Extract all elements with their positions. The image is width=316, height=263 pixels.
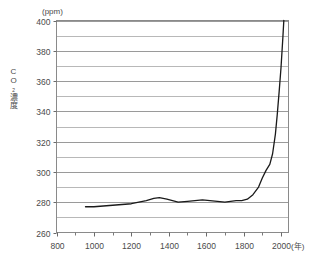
x-axis-tick-label: 1000 (85, 241, 104, 251)
co2-concentration-chart: CO₂濃度 (ppm) 400380360340320300280260 800… (0, 0, 316, 263)
y-axis-tick-label: 280 (36, 198, 50, 208)
y-axis-tick-label: 340 (36, 107, 50, 117)
x-axis-ticks (58, 233, 282, 237)
y-axis-tick-labels: 400380360340320300280260 (36, 17, 50, 239)
x-axis-tick-labels: 800100012001400160018002000 (50, 241, 291, 251)
grid-minor-lines (57, 37, 289, 218)
data-series-group (86, 21, 284, 207)
y-unit-label-group: (ppm) (42, 7, 63, 16)
y-axis-tick-label: 400 (36, 17, 50, 27)
x-axis-tick-label: 2000 (272, 241, 291, 251)
x-axis-tick-label: 1400 (160, 241, 179, 251)
y-axis-tick-label: 380 (36, 47, 50, 57)
y-axis-tick-label: 260 (36, 229, 50, 239)
x-axis-tick-label: 1200 (122, 241, 141, 251)
data-line-co2 (86, 21, 284, 207)
chart-canvas: (ppm) 400380360340320300280260 800100012… (0, 0, 316, 263)
y-axis-tick-label: 300 (36, 168, 50, 178)
y-axis-title-char-4: 度 (8, 102, 19, 111)
x-axis-title: (年) (291, 241, 305, 251)
y-axis-title: CO₂濃度 (8, 68, 19, 111)
x-axis-tick-label: 1800 (235, 241, 254, 251)
y-axis-tick-label: 360 (36, 77, 50, 87)
grid-major-lines (57, 22, 289, 203)
x-axis-tick-label: 1600 (197, 241, 216, 251)
y-unit-label: (ppm) (42, 7, 63, 16)
y-axis-tick-label: 320 (36, 138, 50, 148)
x-axis-tick-label: 800 (50, 241, 64, 251)
